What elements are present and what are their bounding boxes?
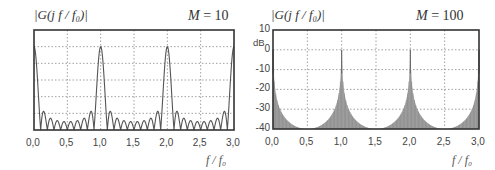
x-tick-label: 1,0 [334,136,348,147]
x-tick-label: 0,0 [265,136,279,147]
right-plot [0,0,495,170]
y-tick-label: -20 [256,82,270,93]
right-x-label: f / f₀ [452,153,472,168]
x-tick-label: 2,5 [437,136,451,147]
x-tick-label: 2,0 [402,136,416,147]
grid-lines [273,30,479,129]
y-tick-label: 0 [264,43,270,54]
x-tick-label: 1,5 [368,136,382,147]
chart-right-m100: |G(j f / f₀)| M = 100 dB -40-30-20-10010… [0,0,495,170]
x-tick-label: 0,5 [299,136,313,147]
y-tick-label: -40 [256,122,270,133]
x-tick-label: 3,0 [471,136,485,147]
y-tick-label: -30 [256,102,270,113]
y-tick-label: 10 [259,23,270,34]
y-tick-label: -10 [256,63,270,74]
